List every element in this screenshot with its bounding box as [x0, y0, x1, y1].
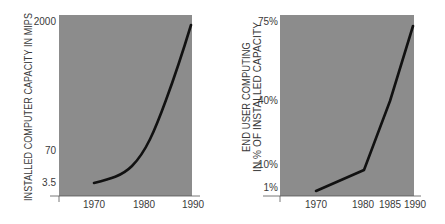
right-y-tick-1: 1%	[264, 182, 279, 193]
charts-figure: 2000 70 3.5 1970 1980 1990 INSTALLED COM…	[0, 0, 445, 224]
right-y-axis-title-line2: IN % OF INSTALLED CAPACITY	[252, 22, 263, 172]
left-y-axis-title: INSTALLED COMPUTER CAPACITY IN MIPS	[23, 13, 34, 201]
right-chart: 75% 40% 10% 1% 1970 1980 1985 1990 END U…	[241, 15, 427, 210]
left-x-tick-1970: 1970	[83, 199, 106, 210]
right-x-tick-1990: 1990	[404, 199, 427, 210]
left-chart: 2000 70 3.5 1970 1980 1990 INSTALLED COM…	[23, 13, 205, 210]
left-plot-area	[59, 15, 192, 196]
left-y-tick-70: 70	[45, 145, 57, 156]
right-y-axis-title-line1: END USER COMPUTING	[241, 42, 252, 152]
left-y-tick-2000: 2000	[34, 16, 57, 27]
right-x-tick-1980: 1980	[352, 199, 375, 210]
right-x-tick-1970: 1970	[305, 199, 328, 210]
left-x-tick-1980: 1980	[133, 199, 156, 210]
left-y-tick-3-5: 3.5	[42, 177, 56, 188]
right-x-tick-1985: 1985	[379, 199, 402, 210]
right-plot-area	[280, 15, 414, 196]
left-x-tick-1990: 1990	[182, 199, 205, 210]
